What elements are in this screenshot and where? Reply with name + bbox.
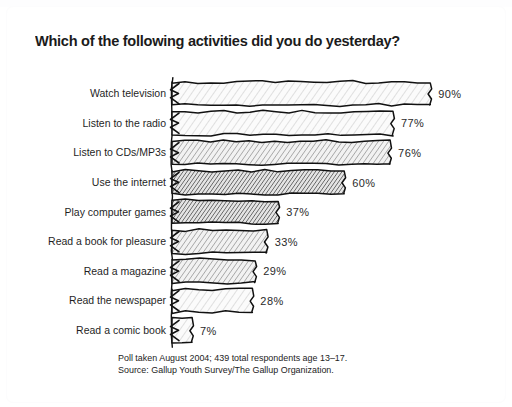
bar: [172, 288, 254, 313]
value-label: 29%: [263, 265, 286, 277]
bar: [172, 258, 257, 284]
category-label: Listen to CDs/MP3s: [73, 146, 166, 158]
bar: [172, 140, 392, 165]
category-label: Play computer games: [64, 206, 166, 218]
value-label: 76%: [398, 147, 421, 159]
category-label: Read a comic book: [76, 324, 167, 336]
footnote-line-1: Poll taken August 2004; 439 total respon…: [118, 352, 347, 364]
bar: [172, 317, 193, 343]
chart-page: Which of the following activities did yo…: [0, 0, 512, 407]
footnote-line-2: Source: Gallup Youth Survey/The Gallup O…: [118, 364, 347, 376]
category-label: Read a magazine: [84, 265, 166, 277]
value-label: 28%: [260, 295, 283, 307]
value-label: 90%: [438, 88, 461, 100]
category-labels: Watch televisionListen to the radioListe…: [48, 87, 167, 336]
value-label: 60%: [352, 177, 375, 189]
value-label: 77%: [401, 117, 424, 129]
category-label: Watch television: [90, 87, 166, 99]
category-label: Listen to the radio: [83, 117, 167, 129]
bar-chart: Watch televisionListen to the radioListe…: [0, 0, 512, 407]
value-label: 33%: [275, 236, 298, 248]
bar: [172, 170, 346, 196]
bar: [172, 81, 432, 107]
bar: [172, 199, 280, 224]
category-label: Read the newspaper: [69, 294, 166, 306]
bar: [172, 110, 394, 136]
bar: [172, 229, 268, 255]
value-label: 7%: [200, 325, 217, 337]
footnotes: Poll taken August 2004; 439 total respon…: [118, 352, 347, 376]
category-label: Read a book for pleasure: [48, 235, 166, 247]
value-label: 37%: [286, 206, 309, 218]
category-label: Use the internet: [92, 176, 166, 188]
